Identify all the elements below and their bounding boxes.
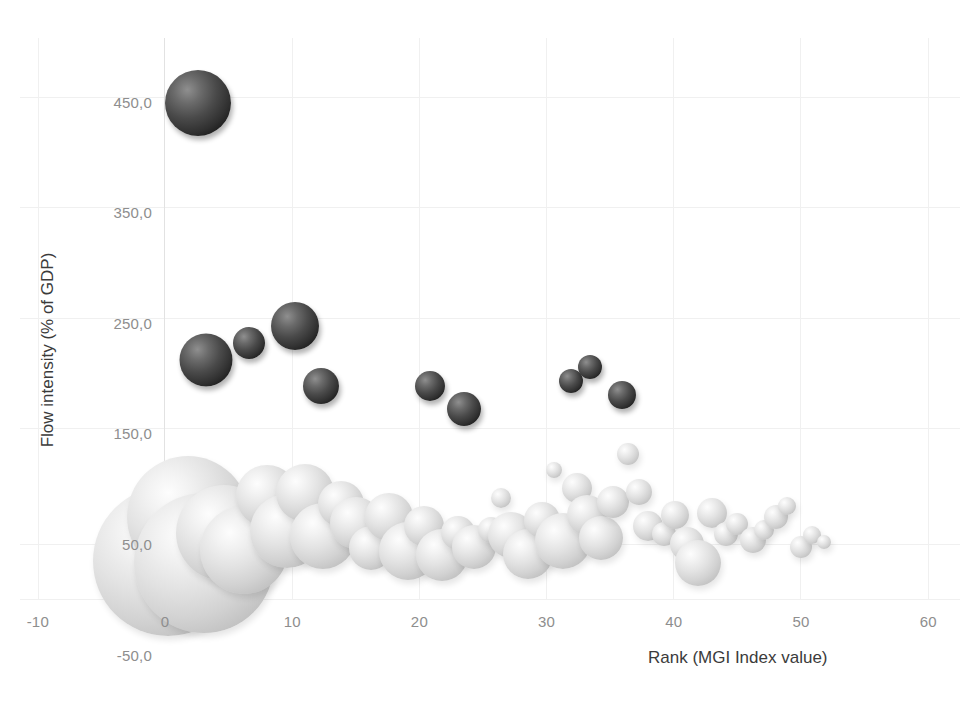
y-tick-label-150: 150,0 <box>80 425 152 442</box>
bubble-high-intensity-4[interactable] <box>303 368 339 404</box>
bubble-high-intensity-6[interactable] <box>447 392 481 426</box>
y-tick-label-350: 350,0 <box>80 204 152 221</box>
x-tick-label-20: 20 <box>411 613 428 630</box>
bubble-standard-intensity-35[interactable] <box>675 540 721 586</box>
y-tick-label--50: -50,0 <box>80 646 152 663</box>
bubble-high-intensity-5[interactable] <box>415 371 445 401</box>
bubble-standard-intensity-29[interactable] <box>617 443 639 465</box>
gridline-250 <box>20 318 960 319</box>
gridline-450 <box>20 97 960 98</box>
x-tick-label-40: 40 <box>665 613 682 630</box>
y-tick-label-450: 450,0 <box>80 93 152 110</box>
gridline-350 <box>20 207 960 208</box>
x-tick-label-10: 10 <box>284 613 301 630</box>
bubble-standard-intensity-28[interactable] <box>597 486 629 518</box>
bubble-high-intensity-1[interactable] <box>179 334 232 387</box>
bubble-chart: -50,050,0150,0250,0350,0450,0-1001020304… <box>0 0 971 701</box>
gridline-x-50 <box>800 38 801 600</box>
gridline-150 <box>20 428 960 429</box>
bubble-standard-intensity-30[interactable] <box>626 479 652 505</box>
bubble-standard-intensity-19[interactable] <box>491 488 511 508</box>
x-tick-label--10: -10 <box>27 613 49 630</box>
bubble-standard-intensity-45[interactable] <box>817 535 831 549</box>
bubble-standard-intensity-33[interactable] <box>661 501 689 529</box>
bubble-high-intensity-8[interactable] <box>578 355 602 379</box>
gridline-x-60 <box>928 38 929 600</box>
x-tick-label-0: 0 <box>161 613 170 630</box>
bubble-standard-intensity-27[interactable] <box>579 516 623 560</box>
bubble-high-intensity-0[interactable] <box>165 70 231 136</box>
bubble-standard-intensity-23[interactable] <box>546 462 562 478</box>
y-tick-label-50: 50,0 <box>80 536 152 553</box>
x-tick-label-60: 60 <box>920 613 937 630</box>
bubble-high-intensity-9[interactable] <box>608 381 636 409</box>
bubble-high-intensity-2[interactable] <box>233 327 265 359</box>
x-axis-title: Rank (MGI Index value) <box>648 648 828 668</box>
y-axis-title: Flow intensity (% of GDP) <box>38 253 58 448</box>
x-tick-label-30: 30 <box>538 613 555 630</box>
y-tick-label-250: 250,0 <box>80 314 152 331</box>
bubble-standard-intensity-42[interactable] <box>778 497 796 515</box>
bubble-high-intensity-3[interactable] <box>271 302 319 350</box>
x-tick-label-50: 50 <box>792 613 809 630</box>
